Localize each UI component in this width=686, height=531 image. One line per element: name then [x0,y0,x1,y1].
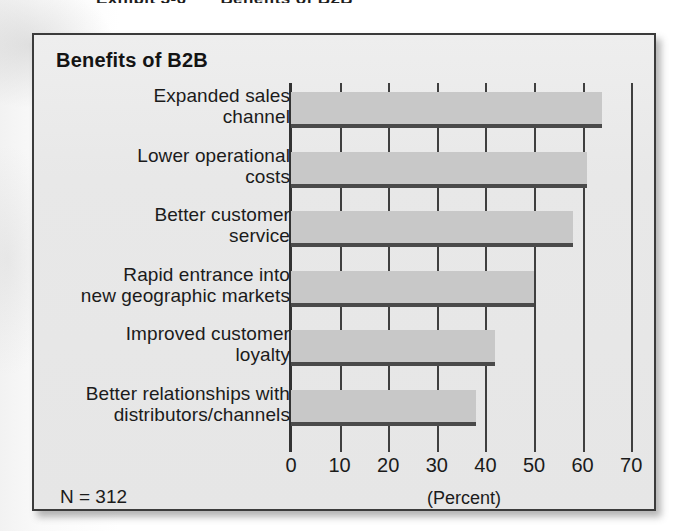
x-tick-label: 70 [611,454,651,477]
category-label-line: Better relationships with [0,383,290,404]
bar [291,92,602,128]
exhibit-panel: Benefits of B2B Expanded saleschannelLow… [32,33,656,511]
category-label-line: Better customer [0,204,290,225]
category-label-line: Expanded sales [0,85,290,106]
category-label-line: new geographic markets [0,285,290,306]
gridline-40 [485,83,487,452]
exhibit-caption-label: Exhibit 5-6 [96,0,186,3]
category-label: Rapid entrance intonew geographic market… [0,264,290,307]
category-label-line: service [0,225,290,246]
sample-size-label: N = 312 [60,486,127,508]
bar [291,330,495,366]
bar [291,152,587,188]
category-label: Lower operationalcosts [0,145,290,188]
category-label: Better customerservice [0,204,290,247]
x-tick-label: 30 [417,454,457,477]
bar-chart-plot: Expanded saleschannelLower operationalco… [34,35,658,513]
category-label-line: Rapid entrance into [0,264,290,285]
category-label: Better relationships withdistributors/ch… [0,383,290,426]
x-tick-label: 20 [368,454,408,477]
category-label-line: loyalty [0,344,290,365]
category-label: Improved customerloyalty [0,323,290,366]
bar [291,211,573,247]
exhibit-caption-text: Benefits of B2B [220,0,353,3]
category-label-line: costs [0,166,290,187]
x-tick-label: 0 [271,454,311,477]
x-tick-label: 60 [563,454,603,477]
category-label-line: Lower operational [0,145,290,166]
gridline-70 [631,83,633,452]
gridline-50 [534,83,536,452]
x-tick-label: 40 [465,454,505,477]
x-axis-unit-label: (Percent) [427,488,501,509]
category-label-line: Improved customer [0,323,290,344]
bar [291,271,534,307]
gridline-60 [583,83,585,452]
x-tick-label: 50 [514,454,554,477]
x-tick-label: 10 [320,454,360,477]
category-label-line: channel [0,106,290,127]
category-label: Expanded saleschannel [0,85,290,128]
exhibit-caption: Exhibit 5-6Benefits of B2B [96,0,516,3]
bar [291,390,476,426]
category-label-line: distributors/channels [0,404,290,425]
